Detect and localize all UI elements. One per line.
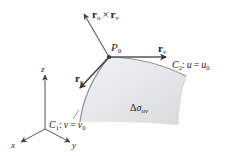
c1-var: v — [64, 119, 69, 130]
z-axis-label: z — [40, 64, 45, 74]
point-p0-label: P0 — [110, 41, 122, 55]
rv-sub: v — [163, 48, 167, 56]
area-sub: uv — [141, 107, 149, 115]
x-axis-label: x — [10, 140, 15, 150]
ru-sub: u — [80, 78, 84, 86]
p0-sub: 0 — [118, 47, 122, 55]
normal-a-sub: u — [97, 14, 101, 22]
c1-colon: : — [59, 119, 62, 130]
c1-eq: = — [70, 119, 76, 130]
c1-val-sub: 0 — [82, 124, 85, 131]
rv-vector-label: rv — [158, 42, 167, 56]
c2-val-sub: 0 — [206, 64, 209, 71]
curve-c1-leader — [73, 110, 79, 119]
c2-colon: : — [182, 59, 185, 70]
point-p0 — [107, 55, 111, 59]
c2-var: u — [187, 59, 192, 70]
coordinate-axes — [21, 75, 70, 142]
normal-op: × — [102, 8, 108, 20]
x-axis — [21, 129, 45, 142]
surface-diagram: ru×rv P0 rv ru C2:u=u0 C1:v=v0 Δσuv z x … — [0, 0, 230, 156]
curve-c2-label: C2:u=u0 — [172, 59, 210, 71]
y-axis-label: y — [71, 140, 76, 150]
normal-vector-label: ru×rv — [92, 8, 120, 22]
normal-b-sub: v — [116, 14, 120, 22]
c2-eq: = — [194, 59, 200, 70]
curve-c1-label: C1:v=v0 — [49, 119, 86, 131]
ru-vector-label: ru — [75, 72, 84, 86]
surface-patch — [80, 57, 186, 125]
